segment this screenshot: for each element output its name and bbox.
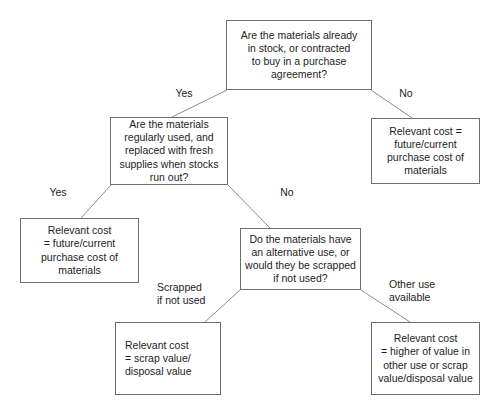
connector-regularly-used-yes [81,185,111,218]
node-question-alternative-use-text: Do the materials have an alternative use… [241,233,360,286]
node-outcome-regularly-used-text: Relevant cost = future/current purchase … [21,224,138,277]
node-outcome-scrapped[interactable]: Relevant cost = scrap value/ disposal va… [115,322,221,395]
node-outcome-scrapped-text: Relevant cost = scrap value/ disposal va… [116,339,220,379]
node-outcome-regularly-used[interactable]: Relevant cost = future/current purchase … [20,218,139,283]
edge-label-regularly-used-no: No [272,186,302,199]
node-outcome-not-in-stock-text: Relevant cost = future/current purchase … [372,125,479,178]
node-outcome-other-use-text: Relevant cost = higher of value in other… [372,332,479,385]
node-outcome-other-use[interactable]: Relevant cost = higher of value in other… [371,322,480,395]
edge-label-in-stock-yes: Yes [164,87,204,100]
node-question-in-stock[interactable]: Are the materials already in stock, or c… [226,20,372,90]
node-question-regularly-used[interactable]: Are the materials regularly used, and re… [110,117,228,185]
edge-label-alternative-other-use: Other use available [389,278,479,304]
connector-regularly-used-no [228,185,270,228]
node-question-regularly-used-text: Are the materials regularly used, and re… [111,118,227,184]
node-outcome-not-in-stock[interactable]: Relevant cost = future/current purchase … [371,118,480,184]
decision-tree-diagram: Are the materials already in stock, or c… [0,0,495,409]
edge-label-alternative-scrapped: Scrapped if not used [157,281,247,307]
node-question-in-stock-text: Are the materials already in stock, or c… [227,29,371,82]
node-question-alternative-use[interactable]: Do the materials have an alternative use… [240,228,361,290]
edge-label-regularly-used-yes: Yes [38,186,78,199]
edge-label-in-stock-no: No [391,87,421,100]
